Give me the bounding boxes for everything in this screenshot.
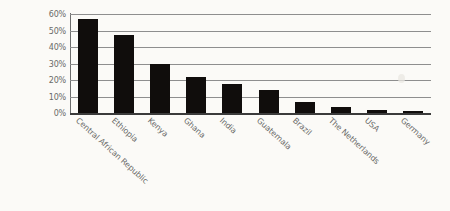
x-axis-tick-label: Ethiopia bbox=[110, 116, 140, 144]
x-axis-tick-label: Kenya bbox=[146, 116, 170, 139]
bar bbox=[150, 64, 170, 114]
bar bbox=[295, 102, 315, 113]
plot-area bbox=[70, 14, 431, 113]
x-axis-tick-label: Ghana bbox=[182, 116, 207, 140]
scan-artifact bbox=[398, 74, 405, 83]
gridline-50 bbox=[70, 31, 431, 32]
y-axis-tick-label: 50% bbox=[49, 26, 66, 35]
y-axis-tick-label: 20% bbox=[49, 76, 66, 85]
x-axis-tick-label: USA bbox=[363, 116, 381, 134]
y-axis-tick-label: 0% bbox=[54, 109, 66, 118]
bar bbox=[331, 107, 351, 113]
chart-screenshot: 60%50%40%30%20%10%0% Central African Rep… bbox=[0, 0, 450, 211]
axis-baseline bbox=[70, 113, 431, 115]
bar bbox=[259, 90, 279, 113]
bar bbox=[186, 77, 206, 113]
gridline-60 bbox=[70, 14, 431, 15]
y-axis-tick-label: 40% bbox=[49, 43, 66, 52]
x-axis-tick-label: India bbox=[218, 116, 238, 135]
bar bbox=[403, 111, 423, 113]
bar bbox=[78, 19, 98, 113]
x-axis-tick-label: Brazil bbox=[291, 116, 313, 137]
x-axis-tick-label: Guatemala bbox=[255, 116, 293, 152]
x-axis-tick-label: Central African Republic bbox=[74, 116, 150, 186]
y-axis-tick-label: 10% bbox=[49, 92, 66, 101]
y-axis-labels: 60%50%40%30%20%10%0% bbox=[30, 14, 66, 113]
x-axis-tick-label: Germany bbox=[399, 116, 432, 147]
bar bbox=[367, 110, 387, 113]
x-axis-labels: Central African RepublicEthiopiaKenyaGha… bbox=[70, 116, 431, 211]
bar bbox=[114, 35, 134, 113]
y-axis-tick-label: 30% bbox=[49, 59, 66, 68]
y-axis-tick-label: 60% bbox=[49, 10, 66, 19]
bar bbox=[222, 84, 242, 113]
